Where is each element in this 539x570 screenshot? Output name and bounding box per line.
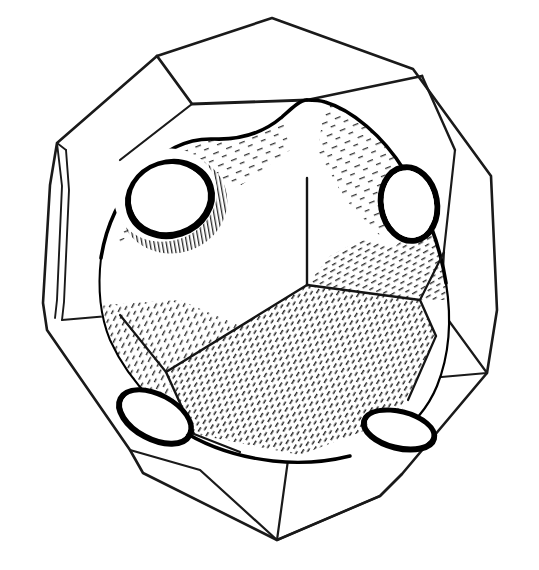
polyhedron-illustration: Faceted polyhedron with carved inner sph… — [0, 0, 539, 570]
figure-root: Faceted polyhedron with carved inner sph… — [0, 0, 539, 570]
